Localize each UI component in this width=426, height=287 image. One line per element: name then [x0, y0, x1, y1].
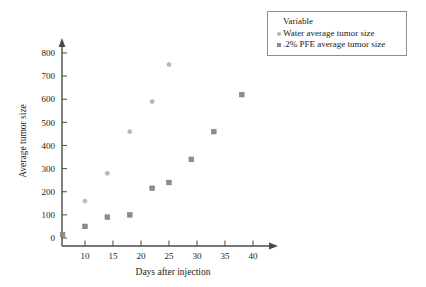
data-point-square: [83, 224, 88, 229]
scatter-chart: 010020030040050060070080010152025303540 …: [0, 0, 426, 287]
y-tick-label: 600: [42, 94, 56, 104]
circle-marker-icon: [274, 32, 283, 36]
data-point-square: [127, 212, 132, 217]
ticks-group: [62, 53, 253, 246]
x-tick-label: 35: [220, 251, 230, 261]
data-point-circle: [105, 171, 109, 175]
y-tick-label: 800: [42, 48, 56, 58]
legend-item-water: Water average tumor size: [274, 28, 400, 39]
y-tick-label: 200: [42, 187, 56, 197]
y-tick-label: 500: [42, 118, 56, 128]
data-point-circle: [150, 99, 154, 103]
data-point-circle: [167, 62, 171, 66]
y-tick-label: 300: [42, 164, 56, 174]
data-point-square: [105, 215, 110, 220]
square-marker-icon: [274, 43, 283, 47]
data-point-square: [167, 180, 172, 185]
x-tick-label: 40: [248, 251, 258, 261]
x-tick-label: 20: [136, 251, 146, 261]
y-tick-label: 0: [51, 233, 56, 243]
x-tick-label: 15: [108, 251, 118, 261]
y-tick-label: 700: [42, 71, 56, 81]
tick-labels-group: 010020030040050060070080010152025303540: [42, 48, 258, 261]
x-tick-label: 25: [164, 251, 174, 261]
x-tick-label: 30: [192, 251, 202, 261]
data-point-square: [189, 157, 194, 162]
y-tick-label: 400: [42, 141, 56, 151]
legend-title: Variable: [283, 16, 400, 27]
data-points-group: [60, 62, 244, 237]
data-point-square: [239, 92, 244, 97]
y-axis-title: Average tumor size: [18, 104, 28, 178]
data-point-circle: [128, 130, 132, 134]
legend-item-pfe: .2% PFE average tumor size: [274, 39, 400, 50]
data-point-square: [211, 129, 216, 134]
series-water: [83, 62, 171, 203]
data-point-circle: [83, 199, 87, 203]
x-tick-label: 10: [80, 251, 90, 261]
x-axis-title: Days after injection: [136, 267, 211, 277]
legend-label-water: Water average tumor size: [283, 28, 374, 39]
y-tick-label: 100: [42, 210, 56, 220]
data-point-square: [60, 232, 65, 237]
series-pfe: [60, 92, 244, 237]
chart-legend: Variable Water average tumor size .2% PF…: [267, 11, 407, 56]
data-point-square: [150, 186, 155, 191]
axes-group: [59, 38, 278, 249]
legend-label-pfe: .2% PFE average tumor size: [283, 39, 385, 50]
